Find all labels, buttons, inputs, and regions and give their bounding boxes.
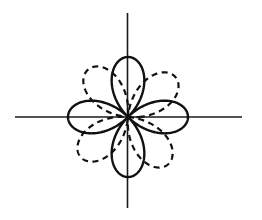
figure-root: [0, 0, 262, 220]
figure-background: [0, 0, 262, 220]
rose-curve-figure: [0, 0, 262, 220]
